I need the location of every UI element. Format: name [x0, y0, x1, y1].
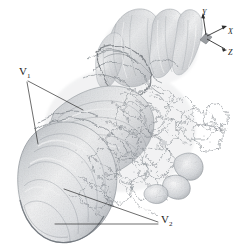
- vortex-isosurface-scene: [0, 0, 240, 248]
- label-v1: V1: [19, 66, 30, 80]
- axis-label-x: X: [228, 28, 233, 36]
- label-v1-subscript: 1: [27, 72, 31, 80]
- axis-label-z: Z: [228, 49, 232, 57]
- label-v2: V2: [161, 214, 172, 228]
- label-v1-text: V: [19, 65, 27, 77]
- label-v2-subscript: 2: [169, 220, 173, 228]
- label-v2-text: V: [161, 213, 169, 225]
- axis-label-y: Y: [202, 9, 206, 17]
- vortex-visualization-figure: V1 V2 Y X Z: [0, 0, 240, 248]
